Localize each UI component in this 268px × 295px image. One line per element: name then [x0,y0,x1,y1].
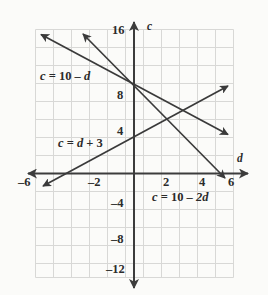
eq2-operator: + [86,136,93,150]
eq2-lhs: c [58,136,64,150]
coordinate-plane [0,0,268,295]
eq2-term-a: d [77,136,83,150]
x-tick-neg-6: –6 [18,175,31,190]
eq3-equals: = [161,190,168,204]
y-axis-label: c [147,20,152,32]
eq3-lhs: c [152,190,158,204]
x-tick-2: 2 [163,175,169,190]
x-tick-neg-2: –2 [88,175,101,190]
y-tick-neg-8: –8 [111,232,124,247]
eq3-term-b: 2d [196,190,209,204]
line-c-equals-10-minus-2d [83,34,225,178]
eq2-term-b: 3 [97,136,103,150]
y-tick-4: 4 [117,124,123,139]
eq3-term-a: 10 [171,190,184,204]
equation-label-line3: c = 10 – 2d [152,190,208,205]
eq1-operator: – [75,69,81,83]
eq1-lhs: c [40,69,46,83]
eq1-term-b: d [84,69,90,83]
eq1-term-a: 10 [59,69,72,83]
eq2-equals: = [67,136,74,150]
graph-figure: c d 16 8 4 –4 –8 –12 –6 –2 2 4 6 c = 10 … [0,0,268,295]
y-tick-16: 16 [112,23,125,38]
x-axis-label: d [237,152,243,164]
eq1-equals: = [49,69,56,83]
x-tick-4: 4 [199,175,205,190]
eq3-operator: – [187,190,193,204]
y-tick-8: 8 [117,88,123,103]
y-tick-neg-4: –4 [111,196,124,211]
equation-label-line2: c = d + 3 [58,136,103,151]
x-tick-6: 6 [228,175,234,190]
y-tick-neg-12: –12 [106,262,125,277]
equation-label-line1: c = 10 – d [40,69,90,84]
